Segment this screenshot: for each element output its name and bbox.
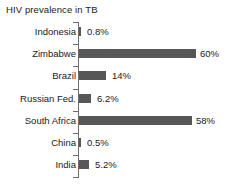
bar-category-label: Zimbabwe [32, 48, 76, 60]
bar-category-label: Indonesia [35, 26, 76, 38]
bar [79, 138, 81, 147]
axis-tick [73, 44, 78, 45]
bar [79, 116, 192, 125]
bar-value-label: 5.2% [95, 159, 117, 171]
bar-value-label: 58% [196, 115, 215, 127]
bar-row: China 0.5% [0, 133, 235, 155]
bar-row: Indonesia 0.8% [0, 22, 235, 44]
bar-category-label: India [55, 159, 76, 171]
bar-value-label: 0.8% [87, 26, 109, 38]
bar-value-label: 0.5% [87, 137, 109, 149]
bar-category-label: South Africa [25, 115, 76, 127]
bar [79, 49, 196, 58]
axis-tick [73, 89, 78, 90]
axis-tick [73, 155, 78, 156]
bar [79, 160, 89, 169]
bar-value-label: 6.2% [97, 93, 119, 105]
bar-row: Russian Fed. 6.2% [0, 89, 235, 111]
hiv-prevalence-bar-chart: HIV prevalence in TB Indonesia 0.8% Zimb… [0, 0, 235, 186]
bar-category-label: Brazil [52, 70, 76, 82]
axis-tick-end [73, 177, 78, 178]
bar [79, 27, 81, 36]
bar [79, 94, 91, 103]
axis-tick [73, 133, 78, 134]
bar-row: Zimbabwe 60% [0, 44, 235, 66]
bar-row: Brazil 14% [0, 66, 235, 88]
bar-category-label: Russian Fed. [20, 93, 76, 105]
bar-value-label: 14% [112, 70, 131, 82]
bar-category-label: China [51, 137, 76, 149]
bar-row: India 5.2% [0, 155, 235, 177]
bar-row: South Africa 58% [0, 111, 235, 133]
axis-tick [73, 111, 78, 112]
axis-tick [73, 66, 78, 67]
chart-title: HIV prevalence in TB [6, 4, 98, 16]
bar [79, 71, 106, 80]
plot-area: Indonesia 0.8% Zimbabwe 60% Brazil 14% R… [0, 22, 235, 182]
bar-value-label: 60% [200, 48, 219, 60]
axis-tick [73, 22, 78, 23]
